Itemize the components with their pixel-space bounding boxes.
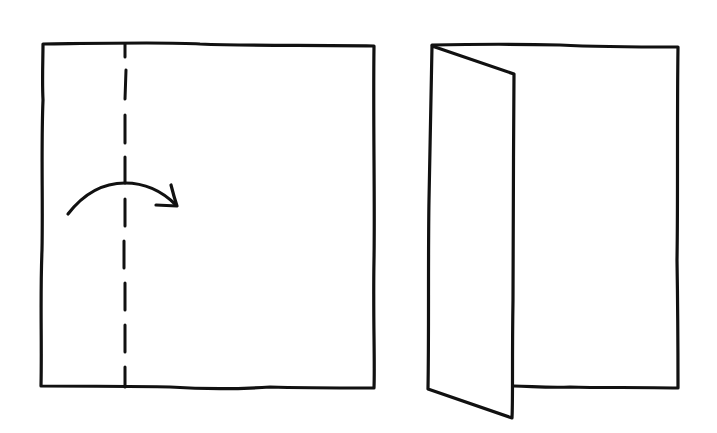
- step-1-unfolded-sheet: [41, 43, 374, 389]
- base-sheet-outline: [432, 44, 678, 388]
- folded-flap-outline: [428, 46, 514, 418]
- step-2-folded-sheet: [428, 44, 678, 418]
- square-sheet-outline: [41, 43, 374, 389]
- folding-diagram: Fold the left edge of a square sheet alo…: [0, 0, 717, 433]
- fold-direction-arrow-icon: [68, 183, 177, 214]
- folded-flap-edges: [428, 46, 514, 418]
- dashed-fold-line: [124, 44, 126, 387]
